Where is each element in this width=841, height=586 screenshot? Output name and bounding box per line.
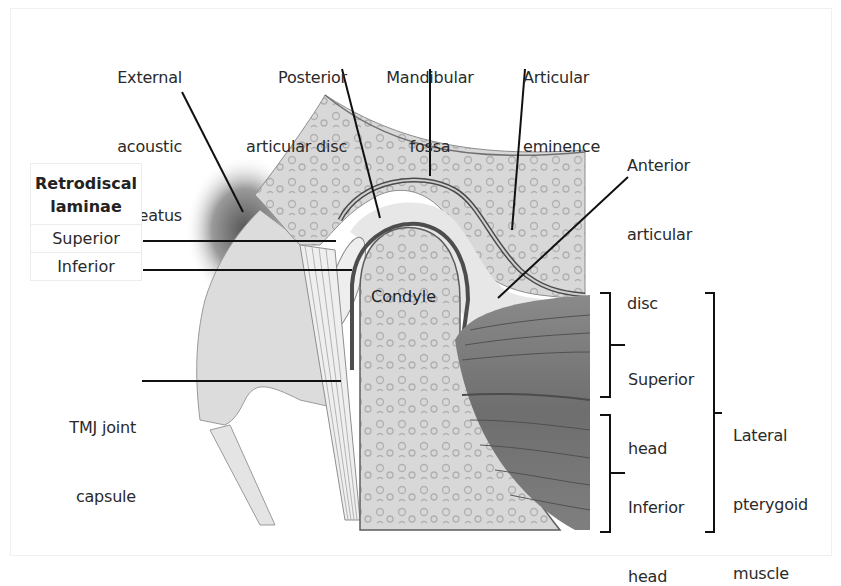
label-posterior-articular-disc: Posterior articular disc <box>225 20 347 181</box>
label-articular-eminence: Articular eminence <box>523 20 623 181</box>
label-tmj-joint-capsule: TMJ joint capsule <box>40 370 136 531</box>
legend-row-superior: Superior <box>31 225 141 253</box>
label-anterior-articular-disc: Anterior articular disc <box>627 108 717 338</box>
retrodiscal-laminae-legend: Retrodiscal laminae Superior Inferior <box>30 163 142 281</box>
label-condyle: Condyle <box>371 287 436 306</box>
legend-title: Retrodiscal laminae <box>31 164 141 225</box>
label-inferior-head: Inferior head <box>628 450 708 586</box>
legend-row-inferior: Inferior <box>31 253 141 280</box>
label-lateral-pterygoid-muscle: Lateral pterygoid muscle <box>733 378 823 586</box>
label-mandibular-fossa: Mandibular fossa <box>378 20 482 181</box>
styloid-process <box>210 425 275 525</box>
